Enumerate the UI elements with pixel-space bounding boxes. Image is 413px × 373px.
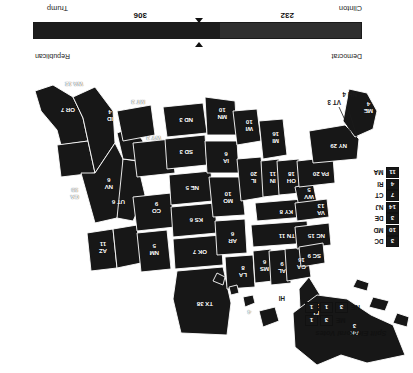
state-label-ar: AR6 [228,231,237,245]
small-legend-state-dc: DC [374,239,383,246]
state-label-wi: WI10 [246,119,253,133]
small-legend-votes-nj: 14 [386,202,399,213]
state-label-ia: IA6 [223,151,229,165]
small-legend-state-nj: NJ [375,204,383,211]
state-label-hi-votes: 4 [248,309,251,315]
split-legend-box-ne-1b: 1 [305,302,318,313]
state-label-wa: WA 12 [65,81,83,87]
small-legend-item-ma: 11 MA [335,168,399,178]
state-label-or: OR 7 [61,107,75,113]
electoral-map-figure: CA55 NV6 OR 7 WA 12 ID4 MT 3 WY 3 UT 6 A… [0,0,413,373]
small-legend-votes-de: 3 [386,214,399,225]
state-label-ga: GA16 [297,257,306,271]
small-legend-state-ct: CT [375,193,384,200]
tally-majority-marker-bottom [195,18,203,23]
small-legend-item-md: 10 MD [335,226,399,236]
split-legend-box-me-3: 3 [320,315,333,326]
state-label-id: ID4 [107,109,113,123]
state-label-mi: MI16 [272,131,279,145]
state-label-tx: TX 38 [197,301,213,307]
tally-majority-marker-top [195,42,203,47]
small-legend-item-ct: 7 CT [335,191,399,201]
state-label-oh: OH18 [287,171,296,185]
small-legend-votes-ri: 4 [386,179,399,190]
state-label-sc: SC 9 [308,253,321,259]
state-label-al: AL9 [278,261,286,275]
small-states-legend: 3 DC 10 MD 3 DE 14 NJ 7 CT 4 RI [335,167,399,248]
callout-label-nh: NH 4 [342,91,357,97]
state-label-tn: TN 11 [279,233,295,239]
state-label-mo: MO10 [223,191,233,205]
state-label-va: VA13 [317,203,325,217]
tally-votes-republican: 306 [134,11,147,20]
tally-bar-republican-segment [34,23,220,38]
small-legend-item-dc: 3 DC [335,237,399,247]
state-label-nv: NV6 [105,177,113,191]
split-legend-state-me: ME [336,317,346,324]
tally-bar [33,22,362,39]
callout-label-vt: VT 3 [328,99,342,105]
split-legend-state-ne: NE [351,304,360,311]
state-label-ms: MS6 [260,259,269,273]
split-legend-row-ne: NE 3 1 1 [305,303,397,313]
tally-party-democrat: Democrat [332,53,362,60]
tally-candidate-clinton: Clinton [339,4,362,13]
state-label-in: IN11 [270,171,276,185]
electoral-vote-tally: Democrat Republican 232 306 Clinton Trum… [0,0,413,71]
small-legend-state-ma: MA [374,170,384,177]
tally-bar-democrat-segment [220,23,361,38]
state-label-ok: OK 7 [193,249,207,255]
small-legend-state-de: DE [375,216,384,223]
state-label-co: CO9 [152,201,161,215]
state-label-pa: PA 20 [313,171,329,177]
small-legend-votes-ma: 11 [386,168,399,179]
state-label-nd: ND 3 [179,117,193,123]
map-label-hi: HI [279,295,285,301]
split-legend-row-me: ME 3 1 [305,316,397,326]
split-electoral-votes-legend: Split Electoral Votes ME 3 1 NE 3 1 1 [305,300,397,338]
state-label-nm: NM5 [150,243,159,257]
state-label-sd: SD 3 [180,149,193,155]
small-legend-votes-dc: 3 [386,237,399,248]
state-label-ny: NY 29 [330,143,347,149]
state-label-ut: UT 6 [112,199,125,205]
small-legend-state-ri: RI [377,181,383,188]
state-label-ks: KS 6 [190,217,203,223]
split-legend-box-me-1: 1 [305,315,318,326]
split-legend-box-ne-1a: 1 [320,302,333,313]
state-label-mn: MN10 [218,107,227,121]
state-label-la: LA8 [239,265,247,279]
state-label-me: ME4 [364,101,373,115]
split-legend-box-ne-3: 3 [335,302,348,313]
small-legend-item-de: 3 DE [335,214,399,224]
small-legend-state-md: MD [374,227,384,234]
state-label-ca: CA55 [70,187,79,201]
state-label-az: AZ11 [99,241,107,255]
us-map: CA55 NV6 OR 7 WA 12 ID4 MT 3 WY 3 UT 6 A… [0,73,413,373]
small-legend-item-nj: 14 NJ [335,203,399,213]
small-legend-item-ri: 4 RI [335,180,399,190]
split-legend-title: Split Electoral Votes [305,329,397,338]
state-label-ne: NE 5 [186,185,199,191]
state-label-nc: NC 15 [308,233,325,239]
tally-candidate-trump: Trump [47,4,68,13]
small-legend-votes-md: 10 [386,225,399,236]
tally-party-republican: Republican [35,53,70,60]
state-label-il: IL20 [250,171,257,185]
state-label-wv: WV5 [304,187,314,201]
state-label-wy: WY 3 [146,135,161,141]
state-label-ky: KY 8 [280,209,293,215]
state-label-mt: MT 3 [131,99,145,105]
tally-votes-democrat: 232 [281,11,294,20]
small-legend-votes-ct: 7 [386,191,399,202]
